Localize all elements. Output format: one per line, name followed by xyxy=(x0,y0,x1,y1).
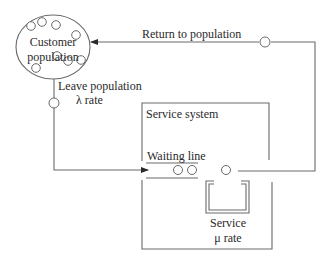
return-to-population-label: Return to population xyxy=(142,28,241,40)
service-facility xyxy=(206,181,249,213)
customer-population-line1: Customer xyxy=(18,36,88,48)
waiting-line-label: Waiting line xyxy=(147,150,206,162)
queued-customer xyxy=(174,166,183,175)
customer-in-service xyxy=(222,166,231,175)
customer-population-line2: population xyxy=(18,51,88,63)
queued-customer xyxy=(188,166,197,175)
waiting-line xyxy=(146,163,198,178)
service-label: Service xyxy=(206,217,250,229)
return-node-circle xyxy=(260,37,270,47)
service-system-label: Service system xyxy=(146,108,218,120)
arrival-rate-label: λ rate xyxy=(76,94,103,106)
leave-population-label: Leave population xyxy=(58,80,142,92)
arrival-node-circle xyxy=(49,98,59,108)
customer-population-label: Customer population xyxy=(18,36,88,63)
service-rate-label: μ rate xyxy=(206,232,250,244)
